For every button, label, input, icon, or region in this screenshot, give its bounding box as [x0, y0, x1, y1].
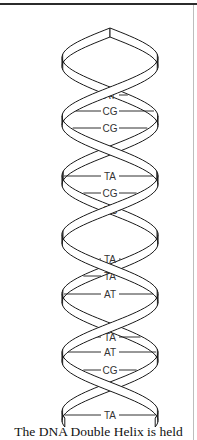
base-pair: TA	[65, 410, 155, 421]
base-pair-label: AT	[104, 289, 116, 300]
base-pair-label: CG	[103, 106, 118, 117]
base-pair-label: CG	[103, 365, 118, 376]
base-pair: CG	[73, 123, 148, 134]
base-pair: CG	[83, 365, 136, 376]
base-pair: AT	[64, 347, 156, 358]
base-pair-label: CG	[103, 123, 118, 134]
base-pair-label: TA	[104, 410, 116, 421]
helix-drawing: ATCGCGTACGGCTATAATTAATCGTA	[0, 0, 197, 440]
base-pair: TA	[64, 171, 156, 182]
dna-double-helix-figure: ATCGCGTACGGCTATAATTAATCGTA The DNA Doubl…	[0, 0, 197, 440]
base-pair-label: TA	[104, 171, 116, 182]
base-pair-label: CG	[103, 188, 118, 199]
figure-caption: The DNA Double Helix is held	[0, 424, 197, 440]
base-pair: CG	[83, 188, 136, 199]
base-pair: AT	[64, 289, 156, 300]
base-pair-label: AT	[104, 347, 116, 358]
